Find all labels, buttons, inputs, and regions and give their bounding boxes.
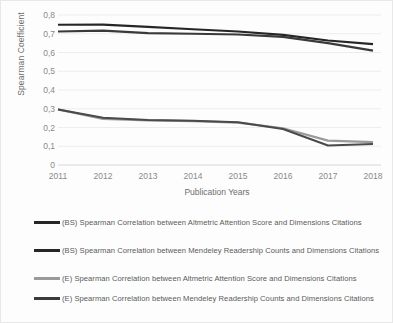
x-axis-tick-label: 2014 xyxy=(184,171,203,181)
x-axis-tick-labels: 20112012201320142015201620172018 xyxy=(1,1,393,201)
chart-plot-region: Spearman Coefficient 00,10,20,30,40,50,6… xyxy=(1,1,393,201)
x-axis-title: Publication Years xyxy=(57,187,377,197)
x-axis-tick-label: 2013 xyxy=(139,171,158,181)
legend-line-swatch xyxy=(34,297,60,300)
x-axis-tick-label: 2011 xyxy=(49,171,67,181)
legend-item-label: (BS) Spearman Correlation between Altmet… xyxy=(62,217,362,228)
chart-legend: (BS) Spearman Correlation between Altmet… xyxy=(1,205,393,323)
chart-figure: Spearman Coefficient 00,10,20,30,40,50,6… xyxy=(0,0,393,323)
legend-item[interactable]: (BS) Spearman Correlation between Mendel… xyxy=(34,245,386,256)
legend-item-label: (E) Spearman Correlation between Mendele… xyxy=(62,293,374,304)
x-axis-tick-label: 2012 xyxy=(94,171,113,181)
x-axis-tick-label: 2017 xyxy=(319,171,338,181)
legend-item[interactable]: (E) Spearman Correlation between Mendele… xyxy=(34,293,386,304)
x-axis-tick-label: 2015 xyxy=(229,171,248,181)
legend-line-swatch xyxy=(34,249,60,252)
legend-item-label: (BS) Spearman Correlation between Mendel… xyxy=(62,245,379,256)
legend-line-swatch xyxy=(34,221,60,224)
legend-item-label: (E) Spearman Correlation between Altmetr… xyxy=(62,273,357,284)
legend-line-swatch xyxy=(34,277,60,280)
x-axis-tick-label: 2018 xyxy=(364,171,383,181)
legend-item[interactable]: (BS) Spearman Correlation between Altmet… xyxy=(34,217,386,228)
legend-item[interactable]: (E) Spearman Correlation between Altmetr… xyxy=(34,273,386,284)
x-axis-tick-label: 2016 xyxy=(274,171,293,181)
